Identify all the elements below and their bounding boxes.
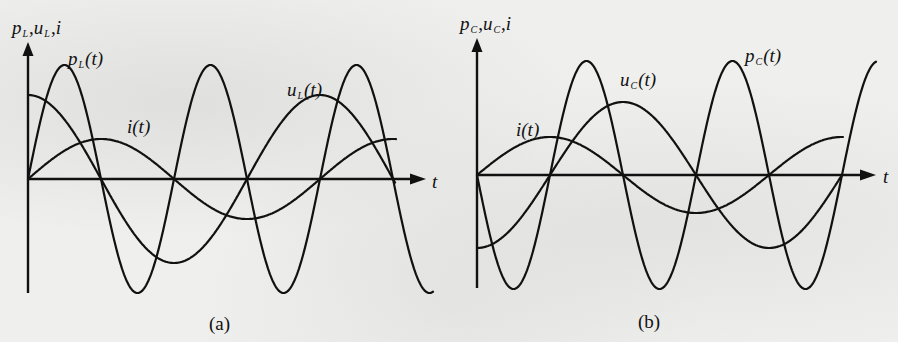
y-axis-label-b: pC,uC,i — [460, 14, 511, 35]
caption-a: (a) — [209, 314, 230, 333]
panel-b — [472, 38, 877, 289]
curve-label-i-b: i(t) — [516, 120, 539, 139]
caption-b: (b) — [638, 312, 660, 331]
curve-label-p-L: pL(t) — [68, 49, 103, 70]
figure: pL,uL,i t pL(t) uL(t) i(t) (a) pC,uC,i t… — [0, 0, 898, 342]
x-axis-arrow-a — [410, 174, 426, 185]
y-axis-arrow-a — [23, 42, 34, 56]
curve-label-i-a: i(t) — [127, 117, 150, 136]
curve-label-p-C: pC(t) — [745, 46, 781, 67]
curve-label-u-L: uL(t) — [287, 80, 322, 101]
y-axis-label-a: pL,uL,i — [12, 18, 61, 39]
x-axis-label-a: t — [432, 172, 437, 191]
x-axis-label-b: t — [883, 167, 888, 186]
panel-a — [23, 42, 434, 293]
curve-label-u-C: uC(t) — [620, 70, 656, 91]
y-axis-arrow-b — [472, 38, 483, 52]
x-axis-arrow-b — [860, 170, 876, 181]
